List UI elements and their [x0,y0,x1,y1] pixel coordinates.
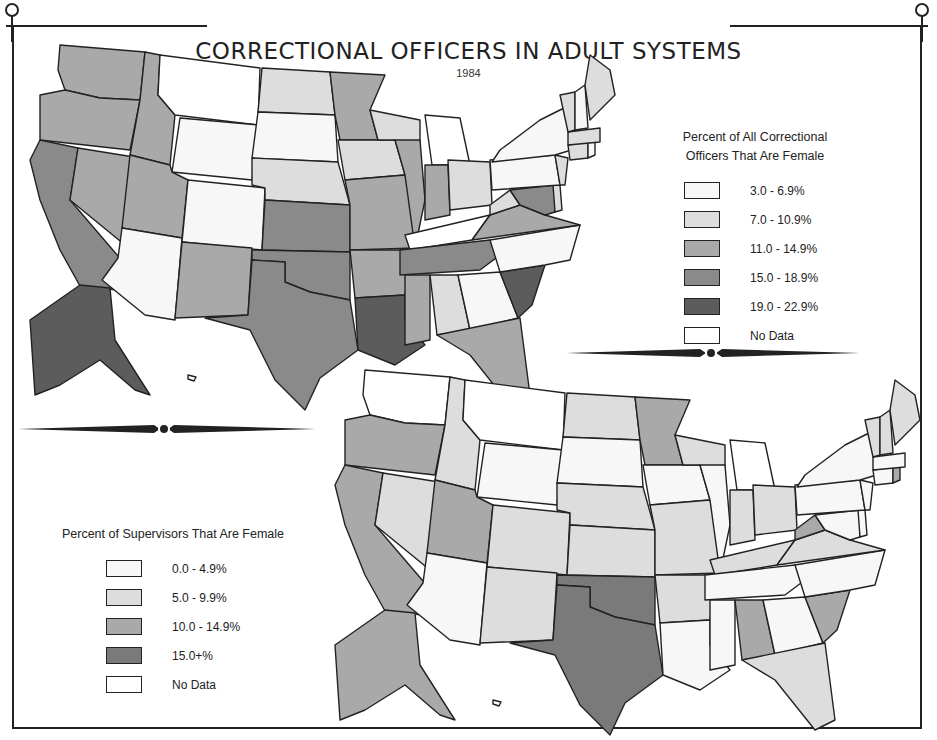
legend-swatch [684,298,720,315]
legend-item: No Data [106,670,298,699]
state-nm [175,242,252,318]
legend-label: 15.0 - 18.9% [750,271,818,285]
legend-label: No Data [172,678,216,692]
state-mi [425,115,470,165]
state-wy [477,443,563,505]
legend-swatch [684,327,720,344]
legend-item: 19.0 - 22.9% [684,292,850,321]
legend-label: 0.0 - 4.9% [172,562,227,576]
legend-label: 7.0 - 10.9% [750,213,811,227]
state-sd [252,112,338,162]
legend-item: 10.0 - 14.9% [106,612,298,641]
legend-label: 3.0 - 6.9% [750,184,805,198]
state-co [182,180,265,250]
state-ia [643,465,710,505]
legend-item: 3.0 - 6.9% [684,176,850,205]
map-officers [30,45,615,410]
legend-supervisors-title: Percent of Supervisors That Are Female [48,525,298,544]
state-az [407,553,487,645]
state-nd [258,68,335,115]
state-mi [730,440,775,490]
legend-officers-title-2: Officers That Are Female [660,147,850,166]
legend-item: 5.0 - 9.9% [106,583,298,612]
state-ms [710,600,735,670]
state-nm [480,567,557,643]
state-or [345,415,445,475]
state-ia [338,140,405,180]
legend-label: 15.0+% [172,649,213,663]
legend-officers-title-1: Percent of All Correctional [660,128,850,147]
state-ri [893,467,900,483]
legend-swatch [684,269,720,286]
legend-item: 15.0+% [106,641,298,670]
state-mo [345,175,415,250]
legend-item: 7.0 - 10.9% [684,205,850,234]
state-oh [753,485,797,535]
state-co [487,505,570,575]
state-ms [405,275,430,345]
state-wy [172,118,258,180]
state-ri [588,142,595,158]
state-oh [448,160,492,210]
state-hi [188,375,196,381]
state-mo [650,500,720,575]
state-az [102,228,182,320]
state-ne [557,483,655,530]
state-hi [493,700,501,706]
legend-officers: Percent of All Correctional Officers Tha… [660,128,850,350]
state-in [425,165,450,220]
legend-item: No Data [684,321,850,350]
state-de [553,185,562,212]
legend-swatch [106,676,142,693]
legend-label: No Data [750,329,794,343]
state-ks [567,525,655,577]
legend-swatch [106,589,142,606]
state-me [890,380,920,445]
legend-item: 0.0 - 4.9% [106,554,298,583]
legend-label: 5.0 - 9.9% [172,591,227,605]
legend-swatch [684,211,720,228]
state-or [40,90,140,150]
legend-swatch [684,240,720,257]
legend-supervisors: Percent of Supervisors That Are Female 0… [48,525,298,699]
legend-swatch [106,618,142,635]
legend-item: 11.0 - 14.9% [684,234,850,263]
legend-swatch [106,647,142,664]
legend-swatch [684,182,720,199]
map-supervisors [335,370,920,735]
state-in [730,490,755,545]
state-ks [262,200,350,252]
state-ne [252,158,350,205]
legend-label: 10.0 - 14.9% [172,620,240,634]
legend-label: 11.0 - 14.9% [750,242,817,256]
legend-item: 15.0 - 18.9% [684,263,850,292]
divider-ornament-left [18,424,316,434]
legend-swatch [106,560,142,577]
state-nd [563,393,640,440]
state-de [858,510,867,537]
state-sd [557,437,643,487]
state-me [585,55,615,120]
legend-label: 19.0 - 22.9% [750,300,818,314]
